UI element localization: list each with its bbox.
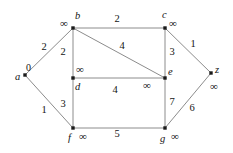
graph-edge-weight-e-g: 7 xyxy=(170,97,175,108)
graph-edge-weight-b-e: 4 xyxy=(120,41,125,52)
graph-node-c xyxy=(163,26,166,29)
graph-node-distance-a: 0 xyxy=(26,63,31,73)
graph-edge-weight-c-z: 1 xyxy=(191,39,196,50)
graph-edge-b-e xyxy=(73,28,165,78)
graph-node-label-f: f xyxy=(68,133,71,144)
graph-node-label-g: g xyxy=(160,134,165,145)
graph-edge-weight-f-g: 5 xyxy=(115,129,120,140)
graph-edge-weight-g-z: 6 xyxy=(190,103,195,114)
graph-edge-weight-c-e: 3 xyxy=(170,47,175,58)
graph-node-distance-c: ∞ xyxy=(169,18,177,29)
graph-node-distance-f: ∞ xyxy=(79,131,87,142)
graph-edge-weight-b-d: 2 xyxy=(61,47,66,58)
graph-node-label-b: b xyxy=(75,11,80,22)
graph-node-b xyxy=(71,26,74,29)
graph-edge-weight-d-f: 3 xyxy=(61,99,66,110)
graph-node-label-z: z xyxy=(215,65,219,76)
graph-edge-weight-a-f: 1 xyxy=(42,105,47,116)
graph-node-a xyxy=(23,73,26,76)
graph-node-e xyxy=(163,76,166,79)
graph-node-f xyxy=(71,126,74,129)
graph-edge-a-b xyxy=(25,28,73,75)
graph-node-z xyxy=(209,71,212,74)
graph-node-distance-b: ∞ xyxy=(60,18,68,29)
graph-node-label-a: a xyxy=(15,72,20,83)
graph-edge-weight-d-e: 4 xyxy=(113,85,118,96)
graph-node-label-e: e xyxy=(168,67,173,78)
graph-node-label-d: d xyxy=(75,82,80,93)
graph-node-d xyxy=(71,76,74,79)
graph-edge-weight-a-b: 2 xyxy=(42,42,47,53)
graph-edge-weight-b-c: 2 xyxy=(115,14,120,25)
graph-edge-a-f xyxy=(25,75,73,128)
graph-node-distance-g: ∞ xyxy=(171,131,179,142)
graph-node-label-c: c xyxy=(162,10,167,21)
graph-node-g xyxy=(163,126,166,129)
graph-node-distance-e: ∞ xyxy=(143,80,151,91)
graph-node-distance-z: ∞ xyxy=(210,81,218,92)
graph-node-distance-d: ∞ xyxy=(76,64,84,75)
graph-figure: a0b∞c∞d∞e∞f∞g∞z∞212243143756 xyxy=(0,0,233,153)
